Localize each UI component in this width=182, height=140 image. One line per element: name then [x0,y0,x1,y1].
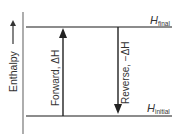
arrowhead-up-icon [59,28,67,38]
level-label-final: Hfinal [150,14,170,27]
arrowhead-down-icon [114,104,122,114]
enthalpy-diagram: Enthalpy Hfinal Hinitial Forward, ΔH Rev… [0,0,182,140]
forward-arrow-label: Forward, ΔH [50,50,61,106]
y-axis-label: Enthalpy [7,50,19,92]
level-label-initial: Hinitial [147,102,170,115]
up-arrow-icon [10,20,16,44]
reverse-arrow-label: Reverse, −ΔH [120,41,131,104]
